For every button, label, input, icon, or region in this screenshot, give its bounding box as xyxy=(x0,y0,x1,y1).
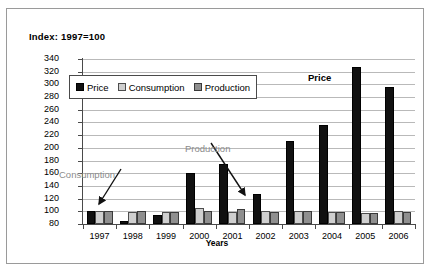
y-tick-mark xyxy=(78,186,83,187)
x-tick-mark xyxy=(116,225,117,229)
y-tick-label: 320 xyxy=(25,67,59,76)
consumption-arrow-icon xyxy=(77,159,137,209)
bar-price-2003[interactable] xyxy=(286,141,295,224)
x-tick-mark xyxy=(149,225,150,229)
gridline xyxy=(83,135,415,136)
bar-price-2000[interactable] xyxy=(186,173,195,224)
y-tick-mark xyxy=(78,59,83,60)
x-tick-mark xyxy=(415,225,416,229)
y-tick-label: 220 xyxy=(25,130,59,139)
legend-item-consumption[interactable]: Consumption xyxy=(118,82,185,93)
bar-consumption-1999[interactable] xyxy=(162,212,171,224)
bar-consumption-2006[interactable] xyxy=(394,211,403,224)
x-tick-mark xyxy=(349,225,350,229)
y-tick-mark xyxy=(78,110,83,111)
bar-production-1997[interactable] xyxy=(104,211,113,224)
y-tick-mark xyxy=(78,199,83,200)
annotation-price: Price xyxy=(308,72,331,83)
bar-production-2002[interactable] xyxy=(270,212,279,224)
y-tick-label: 140 xyxy=(25,181,59,190)
x-tick-mark xyxy=(282,225,283,229)
y-tick-label: 240 xyxy=(25,117,59,126)
bar-production-2000[interactable] xyxy=(204,211,213,224)
bar-production-1998[interactable] xyxy=(137,211,146,224)
x-tick-mark xyxy=(83,225,84,229)
legend-swatch-icon xyxy=(76,83,84,91)
bar-price-2005[interactable] xyxy=(352,67,361,224)
y-tick-label: 120 xyxy=(25,194,59,203)
bar-price-1999[interactable] xyxy=(153,215,162,224)
legend-swatch-icon xyxy=(118,83,126,91)
bar-consumption-2003[interactable] xyxy=(294,211,303,224)
x-axis-title: Years xyxy=(0,238,434,248)
x-tick-mark xyxy=(183,225,184,229)
y-tick-mark xyxy=(78,122,83,123)
y-tick-label: 100 xyxy=(25,206,59,215)
y-tick-label: 180 xyxy=(25,156,59,165)
gridline xyxy=(83,110,415,111)
bar-production-2005[interactable] xyxy=(370,213,379,224)
y-tick-label: 160 xyxy=(25,168,59,177)
bar-production-2006[interactable] xyxy=(403,212,412,224)
x-tick-mark xyxy=(249,225,250,229)
x-tick-mark xyxy=(382,225,383,229)
chart-title: Index: 1997=100 xyxy=(29,31,105,42)
chart-legend: PriceConsumptionProduction xyxy=(69,75,257,99)
x-tick-mark xyxy=(216,225,217,229)
x-tick-mark xyxy=(315,225,316,229)
bar-price-2006[interactable] xyxy=(385,87,394,224)
bar-production-2004[interactable] xyxy=(336,212,345,224)
bar-consumption-2001[interactable] xyxy=(228,212,237,224)
legend-label: Consumption xyxy=(129,82,185,93)
y-tick-label: 300 xyxy=(25,79,59,88)
y-tick-label: 260 xyxy=(25,105,59,114)
gridline xyxy=(83,72,415,73)
annotation-consumption: Consumption xyxy=(59,169,115,180)
legend-swatch-icon xyxy=(194,83,202,91)
legend-item-production[interactable]: Production xyxy=(194,82,250,93)
y-tick-mark xyxy=(78,211,83,212)
chart-frame: Index: 1997=100 340320300280260240220200… xyxy=(6,8,424,264)
bar-consumption-2000[interactable] xyxy=(195,208,204,224)
y-tick-mark xyxy=(78,148,83,149)
bar-consumption-2005[interactable] xyxy=(361,213,370,224)
y-tick-label: 200 xyxy=(25,143,59,152)
bar-price-2004[interactable] xyxy=(319,125,328,224)
gridline xyxy=(83,122,415,123)
y-tick-mark xyxy=(78,161,83,162)
legend-label: Production xyxy=(205,82,250,93)
y-tick-mark xyxy=(78,72,83,73)
bar-production-1999[interactable] xyxy=(170,212,179,224)
legend-item-price[interactable]: Price xyxy=(76,82,109,93)
bar-consumption-2002[interactable] xyxy=(261,211,270,224)
gridline xyxy=(83,59,415,60)
bar-consumption-1998[interactable] xyxy=(128,212,137,224)
bar-production-2003[interactable] xyxy=(303,211,312,224)
bar-price-1997[interactable] xyxy=(87,211,96,224)
y-tick-label: 340 xyxy=(25,54,59,63)
bar-production-2001[interactable] xyxy=(237,209,246,224)
legend-label: Price xyxy=(87,82,109,93)
annotation-production: Production xyxy=(185,143,230,154)
bar-consumption-1997[interactable] xyxy=(95,211,104,224)
y-tick-label: 280 xyxy=(25,92,59,101)
y-tick-mark xyxy=(78,135,83,136)
bar-consumption-2004[interactable] xyxy=(328,212,337,224)
y-tick-label: 80 xyxy=(25,219,59,228)
